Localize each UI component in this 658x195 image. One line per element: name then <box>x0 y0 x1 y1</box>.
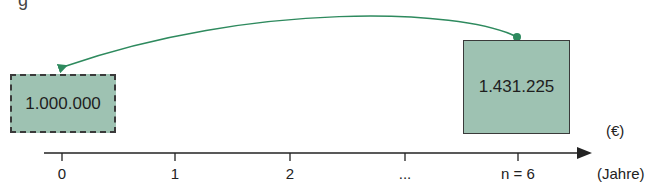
currency-unit-label: (€) <box>606 122 624 139</box>
future-value-label: 1.431.225 <box>479 77 555 97</box>
timeline-tick-label: 2 <box>286 165 294 182</box>
present-value-label: 1.000.000 <box>25 94 101 114</box>
timeline-tick-label: 1 <box>171 165 179 182</box>
timeline-tick-label: n = 6 <box>501 165 535 182</box>
present-value-box: 1.000.000 <box>10 74 116 133</box>
timeline-tick-label: 0 <box>58 165 66 182</box>
timeline-tick-label: ... <box>399 165 412 182</box>
time-unit-label: (Jahre) <box>597 165 645 182</box>
time-axis-arrowhead <box>577 147 592 159</box>
discount-arrow <box>66 16 517 66</box>
future-value-box: 1.431.225 <box>463 40 570 134</box>
